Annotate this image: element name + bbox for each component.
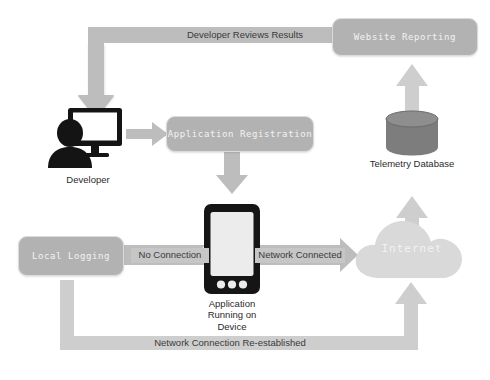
box-local-logging-label: Local Logging	[32, 251, 110, 261]
telemetry-database-caption: Telemetry Database	[356, 158, 468, 169]
device-caption: Application Running on Device	[186, 298, 278, 332]
internet-caption: Internet	[350, 242, 474, 255]
box-application-registration-label: Application Registration	[168, 129, 312, 139]
developer-node	[46, 108, 128, 168]
developer-reviews-results-text: Developer Reviews Results	[187, 29, 303, 40]
database-icon	[381, 110, 443, 156]
developer-label: Developer	[66, 174, 109, 185]
developer-caption: Developer	[36, 174, 140, 185]
telemetry-database-node	[381, 110, 443, 156]
diagram-canvas: Website Reporting Application Registrati…	[0, 0, 490, 380]
edge-label-no-connection: No Connection	[131, 248, 209, 263]
no-connection-text: No Connection	[139, 249, 202, 260]
internet-label: Internet	[382, 242, 443, 255]
edge-label-network-reestablished: Network Connection Re-established	[110, 338, 350, 349]
box-application-registration[interactable]: Application Registration	[166, 116, 314, 152]
box-local-logging[interactable]: Local Logging	[18, 236, 124, 276]
internet-node: Internet	[350, 212, 474, 284]
device-label-line3: Device	[186, 321, 278, 332]
mobile-phone-icon	[203, 203, 261, 295]
box-website-reporting[interactable]: Website Reporting	[332, 18, 478, 56]
edge-label-network-connected: Network Connected	[255, 248, 345, 263]
arrow-registration-to-device	[216, 152, 248, 194]
arrow-database-to-website-reporting	[396, 64, 428, 112]
telemetry-database-label: Telemetry Database	[370, 158, 454, 169]
box-website-reporting-label: Website Reporting	[354, 32, 456, 42]
developer-icon	[46, 108, 128, 168]
edge-label-developer-reviews-results: Developer Reviews Results	[145, 30, 345, 41]
device-label-line2: Running on	[186, 309, 278, 320]
arrow-developer-to-registration	[126, 122, 168, 146]
device-node	[203, 203, 261, 295]
device-label-line1: Application	[186, 298, 278, 309]
network-connected-text: Network Connected	[258, 249, 341, 260]
network-reestablished-text: Network Connection Re-established	[154, 337, 306, 348]
